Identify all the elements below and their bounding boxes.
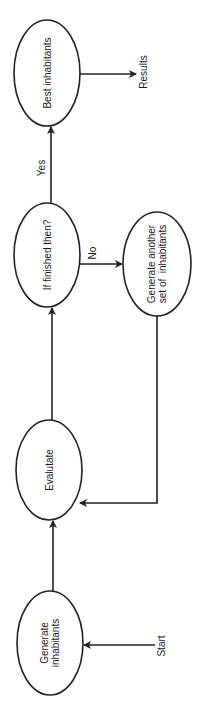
terminal-start: Start (156, 635, 167, 656)
node-label-generate-inhabitants: Generate inhabitants (39, 619, 61, 667)
flowchart-shapes (0, 0, 204, 713)
node-label-line: set of inhabitants (157, 225, 168, 303)
node-label-evaluate: Evalutate (44, 449, 55, 491)
node-label-best-inhabitants: Best inhabitants (42, 37, 53, 108)
node-label-line: Generate another (146, 225, 157, 303)
node-label-line: Generate (39, 619, 50, 667)
edge-label-yes: Yes (36, 160, 47, 176)
terminal-results: Results (138, 55, 149, 88)
node-label-line: inhabitants (50, 619, 61, 667)
node-label-generate-another: Generate another set of inhabitants (146, 225, 168, 303)
edge-another-to-evaluate (80, 316, 157, 503)
edge-label-no: No (87, 247, 98, 260)
node-label-if-finished: If finished then? (42, 220, 53, 291)
flowchart-canvas: Best inhabitants If finished then? Gener… (0, 0, 204, 713)
